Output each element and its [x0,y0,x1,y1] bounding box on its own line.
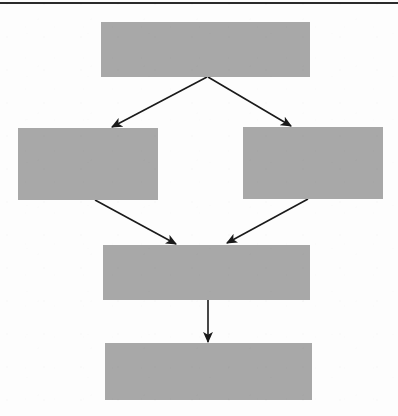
diagram-page [0,0,398,416]
flow-node-4[interactable] [103,245,310,300]
flow-node-1[interactable] [101,22,310,77]
edge-layer [95,77,308,342]
flow-node-2[interactable] [18,128,158,200]
flow-node-5[interactable] [105,343,312,400]
edge-3-4 [227,199,308,243]
edge-1-2 [112,77,207,127]
edge-2-4 [95,200,176,244]
flow-node-3[interactable] [243,127,383,199]
edge-1-3 [208,77,291,126]
